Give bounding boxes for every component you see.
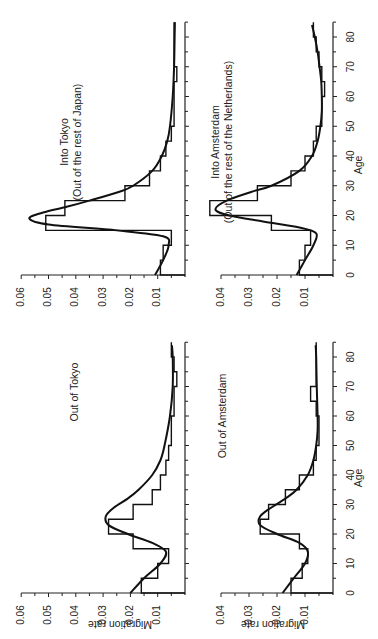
age-tick-label: 30 <box>345 499 356 511</box>
age-tick-label: 30 <box>345 180 356 192</box>
panel-subtitle: (Out of the rest of the Netherlands) <box>222 61 234 223</box>
panel-title: Into Amsterdam <box>209 105 221 179</box>
model-curve <box>258 345 317 593</box>
panel-into-tokyo: 0.010.020.030.040.050.06Into Tokyo(Out o… <box>15 22 189 307</box>
rate-tick-label: 0.05 <box>42 605 53 625</box>
age-tick-label: 50 <box>345 440 356 452</box>
age-tick-label: 70 <box>345 61 356 73</box>
rate-tick-label: 0.03 <box>97 287 108 307</box>
panel-out-of-amsterdam: 010203040506070800.010.020.030.04Out of … <box>215 342 364 631</box>
panel-title: Into Tokyo <box>58 118 70 166</box>
age-tick-label: 20 <box>345 210 356 222</box>
panel-title: Out of Amsterdam <box>216 373 228 458</box>
migration-figure: 0.010.020.030.040.050.06Into Tokyo(Out o… <box>0 0 378 639</box>
age-tick-label: 80 <box>345 31 356 43</box>
rate-tick-label: 0.02 <box>124 287 135 307</box>
age-tick-label: 20 <box>345 528 356 540</box>
observed-step-series <box>260 342 333 593</box>
age-tick-label: 60 <box>345 91 356 103</box>
model-curve <box>105 345 173 593</box>
rate-tick-label: 0.04 <box>215 605 226 625</box>
rate-tick-label: 0.04 <box>215 287 226 307</box>
age-tick-label: 70 <box>345 381 356 393</box>
panel-into-amsterdam: 010203040506070800.010.020.030.04Into Am… <box>209 22 364 307</box>
rate-tick-label: 0.04 <box>69 287 80 307</box>
age-tick-label: 10 <box>345 239 356 251</box>
age-tick-label: 60 <box>345 410 356 422</box>
age-tick-label: 80 <box>345 351 356 363</box>
rate-tick-label: 0.05 <box>42 287 53 307</box>
age-axis-title: Age <box>352 156 364 175</box>
rate-tick-label: 0.01 <box>151 287 162 307</box>
rate-axis-title: Migration rate <box>88 619 152 631</box>
age-tick-label: 10 <box>345 558 356 570</box>
rate-tick-label: 0.04 <box>69 605 80 625</box>
rate-axis-title: Migration rate <box>241 619 305 631</box>
rate-tick-label: 0.06 <box>15 605 26 625</box>
age-tick-label: 50 <box>345 120 356 132</box>
rate-tick-label: 0.02 <box>271 287 282 307</box>
panel-subtitle: (Out of the rest of Japan) <box>71 84 83 201</box>
age-axis-title: Age <box>352 469 364 488</box>
rate-tick-label: 0.01 <box>299 287 310 307</box>
panel-title: Out of Tokyo <box>68 362 80 421</box>
rate-tick-label: 0.06 <box>15 287 26 307</box>
age-tick-label: 0 <box>345 590 356 596</box>
panel-out-of-tokyo: 0.010.020.030.040.050.06Out of TokyoMigr… <box>15 342 189 631</box>
age-tick-label: 0 <box>345 272 356 278</box>
model-curve <box>29 22 175 275</box>
rate-tick-label: 0.03 <box>243 287 254 307</box>
